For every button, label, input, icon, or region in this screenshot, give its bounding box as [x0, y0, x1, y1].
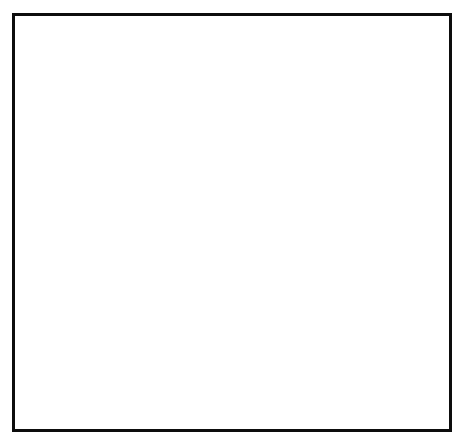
figure-border — [12, 13, 452, 432]
chart-screenshot: 9080706050403020l00 '72'74'76'78'80'82'8… — [0, 0, 462, 445]
